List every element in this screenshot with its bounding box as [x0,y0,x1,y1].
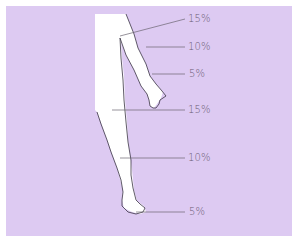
label-upper-arm: 15% [188,13,211,24]
label-lower-leg: 10% [188,152,211,163]
label-foot: 5% [189,206,205,217]
label-thigh: 15% [188,104,211,115]
body-silhouette [95,14,163,214]
label-hand: 5% [189,68,205,79]
limb-figure [0,0,292,241]
label-forearm: 10% [188,41,211,52]
